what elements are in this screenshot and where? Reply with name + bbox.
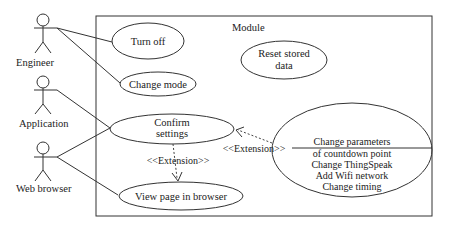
use-case-label-line4: Add Wifi network: [316, 170, 389, 181]
stick-figure-icon: [34, 14, 57, 53]
use-case-label-line1: Confirm: [154, 117, 190, 128]
arrowhead-icon: [236, 127, 244, 137]
extension-label: <<Extension>>: [147, 155, 210, 166]
use-case-label: Turn off: [131, 36, 166, 47]
use-case-label: Change mode: [129, 79, 187, 90]
use-case-view-page: View page in browser: [119, 182, 243, 210]
use-case-label-line2: of countdown point: [313, 148, 392, 159]
use-case-change-settings: Change parameters of countdown point Cha…: [272, 103, 432, 197]
use-case-label-line2: data: [275, 60, 293, 71]
use-case-confirm-settings: Confirm settings: [110, 114, 234, 144]
use-case-label-line1: Change parameters: [314, 136, 391, 147]
use-case-label-line2: settings: [156, 128, 188, 139]
stick-figure-icon: [34, 76, 57, 114]
extension-label: <<Extension>>: [223, 143, 286, 154]
stick-figure-icon: [34, 142, 57, 181]
actor-label: Web browser: [16, 183, 72, 194]
use-case-label: View page in browser: [135, 191, 227, 202]
extension-change-to-confirm: <<Extension>>: [223, 127, 286, 154]
extension-confirm-to-view: <<Extension>>: [147, 144, 210, 181]
use-case-diagram: Module Engineer Application W: [0, 0, 451, 236]
use-case-label-line3: Change ThingSpeak: [311, 159, 392, 170]
actor-web-browser: Web browser: [16, 142, 72, 194]
actor-label: Application: [19, 118, 69, 129]
module-label: Module: [232, 22, 265, 33]
actor-engineer: Engineer: [16, 14, 57, 68]
actor-label: Engineer: [16, 57, 54, 68]
use-case-label-line5: Change timing: [322, 181, 381, 192]
actor-application: Application: [19, 76, 69, 129]
use-case-turn-off: Turn off: [112, 23, 184, 59]
use-case-reset-stored-data: Reset stored data: [241, 41, 327, 79]
assoc-webbrowser-confirm: [57, 128, 110, 157]
use-case-label-line1: Reset stored: [258, 48, 310, 59]
associations: [57, 28, 120, 195]
use-case-change-mode: Change mode: [120, 72, 196, 96]
